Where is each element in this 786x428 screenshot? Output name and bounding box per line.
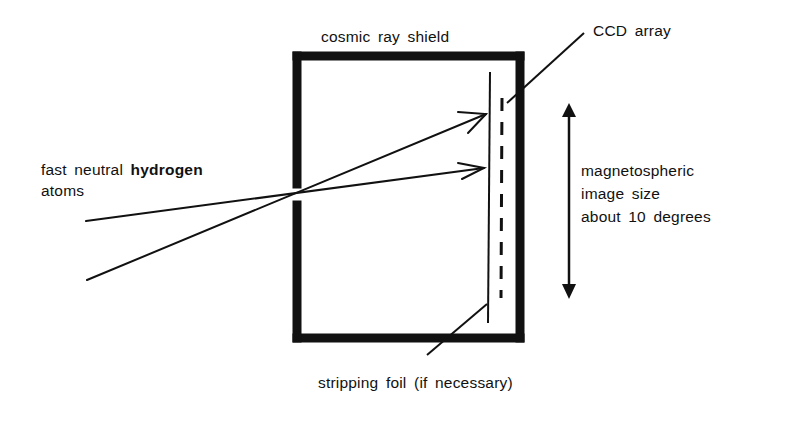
atoms-label-hydrogen: hydrogen (131, 161, 203, 178)
foil-leader-line (427, 304, 487, 355)
neutral-atom-rays (86, 112, 486, 280)
ray-upper (87, 114, 486, 280)
arrow-up-icon (562, 103, 576, 117)
stripping-foil-label: stripping foil (if necessary) (318, 372, 513, 393)
atoms-label-line1: fast neutral hydrogen (41, 159, 203, 180)
ccd-array-label: CCD array (593, 20, 671, 41)
image-size-double-arrow (562, 103, 576, 299)
image-size-label-line2: image size (581, 183, 660, 204)
atoms-label-fast-neutral: fast neutral (41, 161, 123, 178)
atoms-label-line2: atoms (41, 180, 84, 201)
stripping-foil-line (488, 72, 490, 323)
arrow-down-icon (562, 284, 576, 299)
cosmic-ray-shield-box (297, 56, 520, 338)
shield-label: cosmic ray shield (321, 26, 449, 47)
image-size-label-line3: about 10 degrees (581, 206, 711, 227)
ccd-array-line (501, 98, 502, 298)
image-size-label-line1: magnetospheric (581, 160, 694, 181)
detector-diagram: cosmic ray shield CCD array fast neutral… (0, 0, 786, 428)
